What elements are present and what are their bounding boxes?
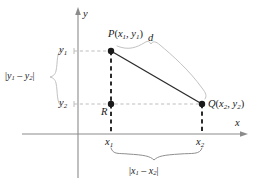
abs-close-y: |: [33, 70, 35, 81]
point-dot-r: [108, 101, 114, 107]
tick-label-y2-sub: 2: [64, 102, 67, 109]
brace-distance-d: [117, 41, 206, 99]
horizontal-difference-label: |x1 – x2|: [129, 166, 159, 177]
abs-close-x: |: [157, 165, 159, 176]
point-dot-p: [108, 48, 114, 54]
tick-label-x1-sub: 1: [110, 141, 113, 148]
hypotenuse-segment-pq: [111, 51, 202, 104]
point-dot-q: [199, 101, 205, 107]
segment-label-d: d: [148, 33, 153, 44]
x-axis-label: x: [235, 118, 240, 129]
tick-label-x2: x2: [196, 137, 204, 148]
distance-formula-figure: y x y1 y2 x1 x2 P(x1, y1) Q(x2, y2) R d …: [0, 0, 255, 189]
brace-horizontal-difference: [111, 148, 202, 160]
tick-label-y2: y2: [59, 98, 67, 109]
x-axis-arrowhead: [240, 131, 248, 137]
tick-label-y1-sub: 1: [64, 49, 67, 56]
tick-label-x1: x1: [105, 137, 113, 148]
vdiff-minus: –: [15, 70, 25, 81]
guide-lines-group: [74, 48, 202, 107]
point-label-p: P(x1, y1): [108, 29, 143, 40]
tick-label-x2-sub: 2: [201, 141, 204, 148]
y-axis-label: y: [83, 9, 88, 20]
y-axis-arrowhead: [75, 7, 81, 15]
point-label-r: R: [101, 107, 107, 118]
tick-label-y1: y1: [59, 45, 67, 56]
point-label-q-letter: Q: [208, 98, 216, 109]
hdiff-minus: –: [139, 165, 149, 176]
vertical-difference-label: |y1 – y2|: [5, 71, 35, 82]
triangle-legs-group: [111, 51, 202, 134]
point-label-q: Q(x2, y2): [208, 99, 244, 110]
